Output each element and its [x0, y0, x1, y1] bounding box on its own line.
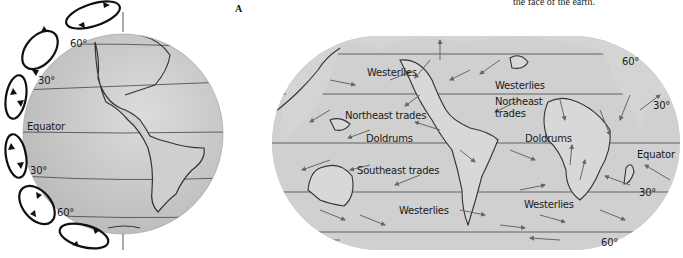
label-doldrums-pacific: Doldrums — [366, 133, 413, 144]
globe-label-30s: 30° — [30, 165, 47, 176]
label-westerlies-s-atlantic: Westerlies — [524, 199, 574, 210]
label-westerlies-nw-pacific: Westerlies — [367, 67, 417, 78]
map-label-60s: 60° — [601, 237, 618, 248]
globe-label-60s: 60° — [57, 207, 74, 218]
label-doldrums-atlantic: Doldrums — [525, 133, 572, 144]
label-northeast-trades-atlantic-1: Northeast — [495, 96, 543, 107]
globe-label-60n: 60° — [70, 38, 87, 49]
map-label-equator: Equator — [637, 149, 675, 160]
map-label-60n: 60° — [622, 56, 639, 67]
map-label-30n: 30° — [653, 100, 670, 111]
polar-cell-north — [63, 0, 123, 34]
label-northeast-trades-pacific: Northeast trades — [345, 110, 426, 121]
label-westerlies-s-pacific: Westerlies — [399, 205, 449, 216]
label-westerlies-n-atlantic: Westerlies — [495, 80, 545, 91]
label-southeast-trades: Southeast trades — [357, 165, 439, 176]
globe-diagram — [0, 0, 683, 258]
globe-label-30n: 30° — [38, 75, 55, 86]
globe-label-equator: Equator — [27, 121, 65, 132]
map-label-30s: 30° — [639, 187, 656, 198]
label-northeast-trades-atlantic-2: trades — [495, 108, 526, 119]
